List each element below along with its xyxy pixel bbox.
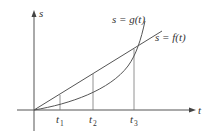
s-axis-label: s	[39, 7, 43, 19]
s-axis-arrow-icon	[32, 10, 37, 17]
position-time-graph: s = g(t) s = f(t) s t t 1 t 2 t 3	[0, 0, 206, 135]
f-line	[34, 31, 162, 110]
g-curve-label: s = g(t)	[112, 13, 145, 26]
tick-label-t3: t 3	[130, 113, 138, 128]
svg-text:2: 2	[93, 119, 97, 128]
svg-text:1: 1	[60, 119, 64, 128]
t-axis-label: t	[198, 104, 202, 116]
t-axis-arrow-icon	[189, 108, 196, 113]
g-curve	[34, 21, 145, 110]
f-line-label: s = f(t)	[155, 31, 186, 44]
svg-text:3: 3	[134, 119, 138, 128]
tick-label-t1: t 1	[56, 113, 64, 128]
tick-label-t2: t 2	[89, 113, 97, 128]
